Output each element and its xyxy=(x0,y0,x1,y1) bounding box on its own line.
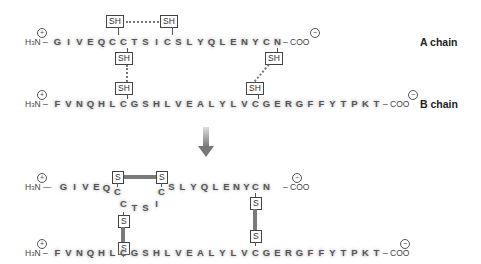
residue: T xyxy=(129,36,140,48)
residue: Y xyxy=(327,98,338,110)
residue: I xyxy=(151,198,162,210)
residue: V xyxy=(63,98,74,110)
dotted-interaction xyxy=(126,65,128,82)
residue: A xyxy=(195,98,206,110)
residue: F xyxy=(305,247,316,259)
residue: K xyxy=(360,247,371,259)
residue: R xyxy=(283,98,294,110)
residue: C xyxy=(250,181,261,193)
residue: Q xyxy=(85,247,96,259)
residue: F xyxy=(316,98,327,110)
residue: T xyxy=(371,247,382,259)
residue: C xyxy=(162,36,173,48)
residue: N xyxy=(239,36,250,48)
residue: N xyxy=(261,181,272,193)
residue: S xyxy=(173,36,184,48)
a-chain-n-terminus: H3N – xyxy=(25,36,48,49)
residue: Q xyxy=(199,181,210,193)
residue: C xyxy=(250,247,261,259)
residue: V xyxy=(63,247,74,259)
sulfhydryl-box: SH xyxy=(106,15,124,28)
residue: L xyxy=(162,98,173,110)
residue: T xyxy=(371,98,382,110)
bond-line xyxy=(117,183,118,187)
residue: H xyxy=(96,247,107,259)
residue: G xyxy=(294,247,305,259)
residue: E xyxy=(272,98,283,110)
residue: V xyxy=(74,36,85,48)
residue: Q xyxy=(85,98,96,110)
residue: C xyxy=(118,198,129,210)
residue: Y xyxy=(217,98,228,110)
a-chain-label: A chain xyxy=(420,36,458,48)
residue: G xyxy=(129,98,140,110)
residue: E xyxy=(272,247,283,259)
a-chain-n-terminus: H3N — xyxy=(25,181,51,194)
residue: V xyxy=(80,181,91,193)
bond-line xyxy=(255,242,256,246)
residue: S xyxy=(140,36,151,48)
b-chain-c-terminus: – COO xyxy=(383,98,409,110)
residue: Q xyxy=(96,36,107,48)
residue: V xyxy=(239,98,250,110)
residue: C xyxy=(112,186,123,198)
residue: C xyxy=(250,98,261,110)
sulfhydryl-box: SH xyxy=(115,52,133,65)
sulfhydryl-box: SH xyxy=(246,82,264,95)
b-chain-label: B chain xyxy=(420,98,458,110)
residue: L xyxy=(107,247,118,259)
residue: H xyxy=(96,98,107,110)
residue: G xyxy=(261,247,272,259)
bond-line xyxy=(172,27,173,35)
residue: G xyxy=(52,36,63,48)
residue: F xyxy=(52,247,63,259)
residue: C xyxy=(118,36,129,48)
residue: L xyxy=(107,98,118,110)
residue: I xyxy=(69,181,80,193)
bond-line xyxy=(118,27,119,35)
residue: T xyxy=(338,98,349,110)
residue: E xyxy=(184,98,195,110)
residue: S xyxy=(140,247,151,259)
residue: Y xyxy=(250,36,261,48)
disulfide-bond xyxy=(253,209,257,230)
disulfide-bond xyxy=(124,175,156,179)
residue: K xyxy=(360,98,371,110)
residue: H xyxy=(151,98,162,110)
residue: L xyxy=(210,181,221,193)
sulfhydryl-box: SH xyxy=(115,82,133,95)
dotted-interaction xyxy=(126,21,159,23)
down-arrow-icon xyxy=(198,127,214,159)
residue: E xyxy=(228,36,239,48)
residue: V xyxy=(173,247,184,259)
b-chain-n-terminus: H3N – xyxy=(25,98,48,111)
residue: E xyxy=(184,247,195,259)
residue: Y xyxy=(217,247,228,259)
residue: S xyxy=(140,98,151,110)
residue: I xyxy=(63,36,74,48)
residue: L xyxy=(206,247,217,259)
residue: F xyxy=(52,98,63,110)
residue: P xyxy=(349,98,360,110)
residue: T xyxy=(338,247,349,259)
residue: N xyxy=(74,247,85,259)
residue: G xyxy=(294,98,305,110)
residue: S xyxy=(140,202,151,214)
residue: Y xyxy=(195,36,206,48)
disulfide-bond xyxy=(121,227,125,242)
residue: L xyxy=(228,247,239,259)
negative-charge-icon: − xyxy=(400,239,410,249)
residue: G xyxy=(58,181,69,193)
residue: G xyxy=(261,98,272,110)
residue: V xyxy=(239,247,250,259)
residue: C xyxy=(118,98,129,110)
residue: Y xyxy=(188,181,199,193)
residue: A xyxy=(195,247,206,259)
negative-charge-icon: − xyxy=(292,173,302,183)
dotted-interaction xyxy=(254,64,270,82)
residue: V xyxy=(173,98,184,110)
residue: Q xyxy=(206,36,217,48)
residue: R xyxy=(283,247,294,259)
a-chain-c-terminus: – COO xyxy=(283,36,309,48)
residue: I xyxy=(151,36,162,48)
